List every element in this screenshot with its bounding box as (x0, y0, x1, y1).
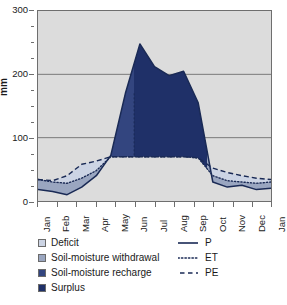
x-tick (115, 202, 116, 207)
x-tick-label: Jan (42, 217, 52, 232)
x-tick-label: Jul (159, 220, 169, 232)
x-tick (37, 202, 38, 207)
legend-label: ET (205, 253, 218, 263)
x-tick (252, 202, 253, 207)
legend-item: Surplus (38, 281, 159, 295)
legend-swatch (38, 269, 46, 277)
x-tick-label: May (120, 214, 130, 232)
y-tick-label: 300 (12, 5, 28, 15)
y-tick-label: 200 (12, 69, 28, 79)
legend-label: PE (205, 268, 218, 278)
x-tick-label: Feb (61, 216, 71, 232)
plot-canvas (38, 11, 271, 201)
x-tick (213, 202, 214, 207)
legend-line-sample (178, 269, 200, 277)
y-tick-minor (31, 122, 34, 123)
y-tick-minor (31, 186, 34, 187)
legend-item: P (178, 236, 218, 250)
legend-swatch (38, 254, 46, 262)
legend-swatch (38, 284, 46, 292)
legend: DeficitSoil-moisture withdrawalSoil-mois… (0, 236, 286, 302)
y-tick-major (29, 10, 34, 11)
legend-line-sample (178, 239, 200, 247)
legend-item: ET (178, 251, 218, 265)
legend-label: Surplus (51, 283, 85, 293)
legend-label: Deficit (51, 238, 79, 248)
legend-swatch (38, 239, 46, 247)
y-axis: mm 0100200300 (0, 0, 37, 212)
y-axis-title: mm (0, 78, 9, 96)
legend-line-sample (178, 254, 200, 262)
legend-line-group: PETPE (178, 236, 218, 281)
x-tick (96, 202, 97, 207)
x-tick (271, 202, 272, 207)
x-tick (174, 202, 175, 207)
x-tick (57, 202, 58, 207)
x-tick-label: Sep (198, 215, 208, 232)
y-tick-minor (31, 42, 34, 43)
y-tick-minor (31, 26, 34, 27)
y-tick-minor (31, 58, 34, 59)
x-tick-label: Jan (277, 217, 287, 232)
legend-label: Soil-moisture withdrawal (51, 253, 159, 263)
x-tick (194, 202, 195, 207)
x-tick (155, 202, 156, 207)
legend-label: P (205, 238, 212, 248)
x-tick (233, 202, 234, 207)
plot-frame (37, 10, 272, 202)
y-tick-major (29, 202, 34, 203)
legend-item: Soil-moisture recharge (38, 266, 159, 280)
water-balance-plot (38, 11, 271, 201)
legend-label: Soil-moisture recharge (51, 268, 152, 278)
legend-item: PE (178, 266, 218, 280)
legend-fill-group: DeficitSoil-moisture withdrawalSoil-mois… (38, 236, 159, 296)
y-tick-minor (31, 154, 34, 155)
chart-area: mm 0100200300 JanFebMarAprMayJunJulAugSe… (0, 0, 286, 232)
y-tick-major (29, 138, 34, 139)
x-tick-label: Dec (257, 215, 267, 232)
y-tick-major (29, 74, 34, 75)
x-tick-label: Nov (237, 215, 247, 232)
x-tick-label: Apr (100, 217, 110, 232)
legend-item: Deficit (38, 236, 159, 250)
y-tick-label: 100 (12, 133, 28, 143)
x-tick-label: Mar (81, 216, 91, 232)
legend-item: Soil-moisture withdrawal (38, 251, 159, 265)
y-tick-minor (31, 106, 34, 107)
climate-water-balance-figure: mm 0100200300 JanFebMarAprMayJunJulAugSe… (0, 0, 286, 305)
y-tick-minor (31, 90, 34, 91)
x-tick (76, 202, 77, 207)
x-tick-label: Aug (179, 215, 189, 232)
y-tick-label: 0 (23, 197, 28, 207)
x-tick (135, 202, 136, 207)
x-tick-label: Oct (218, 217, 228, 232)
x-tick-label: Jun (139, 217, 149, 232)
y-tick-minor (31, 170, 34, 171)
